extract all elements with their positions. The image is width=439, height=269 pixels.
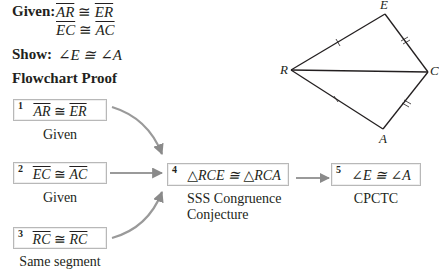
step-1-statement: AR ≅ ER: [14, 103, 106, 120]
segment-AR: [291, 70, 383, 129]
vertex-label-R: R: [280, 62, 288, 78]
step-3-box: 3 RC ≅ RC: [13, 227, 107, 249]
step-4-number: 4: [172, 164, 177, 175]
arrow-3-to-4: [112, 192, 162, 238]
step-5-number: 5: [336, 164, 341, 175]
step-4-reason-line-1: SSS Congruence: [187, 191, 282, 207]
segment-EC: [385, 14, 428, 72]
arrow-1-to-4: [112, 107, 162, 154]
step-5-reason: CPCTC: [331, 191, 421, 207]
step-5-statement: ∠E ≅ ∠A: [342, 167, 420, 184]
step-1-reason: Given: [13, 127, 107, 143]
step-2-right: AC: [69, 167, 87, 182]
step-1-right: ER: [70, 104, 87, 119]
step-3-rel: ≅: [54, 232, 66, 247]
step-2-reason: Given: [13, 190, 107, 206]
step-4-box: 4 △RCE ≅ △RCA: [167, 163, 289, 186]
step-4-reason-line-2: Conjecture: [187, 207, 282, 223]
step-5-box: 5 ∠E ≅ ∠A: [331, 163, 421, 186]
vertex-label-A: A: [379, 131, 387, 147]
kite-figure: [291, 14, 428, 129]
step-2-left: EC: [33, 167, 51, 182]
step-3-left: RC: [33, 232, 51, 247]
step-1-box: 1 AR ≅ ER: [13, 99, 107, 121]
step-3-reason: Same segment: [8, 254, 112, 269]
step-2-rel: ≅: [54, 167, 66, 182]
step-2-statement: EC ≅ AC: [14, 166, 106, 183]
step-4-reason: SSS Congruence Conjecture: [187, 191, 282, 223]
segment-RC: [291, 70, 428, 72]
vertex-label-E: E: [380, 0, 388, 13]
step-3-right: RC: [70, 232, 88, 247]
vertex-label-C: C: [430, 63, 439, 79]
step-2-box: 2 EC ≅ AC: [13, 162, 107, 184]
step-4-statement: △RCE ≅ △RCA: [180, 167, 288, 184]
step-3-statement: RC ≅ RC: [14, 231, 106, 248]
step-1-left: AR: [33, 104, 50, 119]
step-1-rel: ≅: [54, 104, 66, 119]
